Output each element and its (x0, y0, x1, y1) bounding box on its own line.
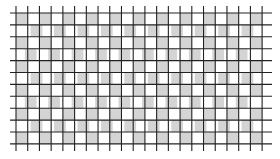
gray-cell (157, 13, 169, 25)
gray-cell (86, 132, 98, 144)
gray-cell (119, 49, 131, 61)
gray-cell (110, 37, 122, 49)
gray-cell (78, 120, 90, 132)
gray-cell (227, 61, 239, 73)
gray-cell (86, 13, 98, 25)
gray-cell (63, 132, 75, 144)
gray-cell (133, 132, 145, 144)
gray-cell (250, 13, 262, 25)
gray-cell (180, 132, 192, 144)
gray-cell (63, 13, 75, 25)
gray-cell (204, 37, 216, 49)
gray-cell (31, 73, 43, 85)
gray-cell (250, 84, 262, 96)
gray-cell (133, 13, 145, 25)
gray-cell (227, 13, 239, 25)
gray-cell (148, 25, 160, 37)
gray-cell (180, 37, 192, 49)
gray-cell (54, 25, 66, 37)
gray-cell (227, 37, 239, 49)
gray-cell (110, 61, 122, 73)
gray-cell (119, 96, 131, 108)
gray-cell (180, 108, 192, 120)
gray-cell (124, 73, 136, 85)
gray-cell (95, 49, 107, 61)
gray-cell (39, 132, 51, 144)
gray-cell (165, 96, 177, 108)
gray-cell (16, 132, 28, 144)
gray-cell (39, 13, 51, 25)
gray-cell (142, 96, 154, 108)
gray-cell (157, 61, 169, 73)
gray-cell (63, 108, 75, 120)
gray-cell (212, 96, 224, 108)
gray-cell (25, 96, 37, 108)
gray-cell (250, 61, 262, 73)
horizontal-lines (10, 13, 272, 144)
gray-cell (39, 37, 51, 49)
gray-cell (180, 13, 192, 25)
gray-cell (16, 108, 28, 120)
gray-cell (133, 84, 145, 96)
gray-cell (16, 84, 28, 96)
gray-cell (204, 108, 216, 120)
gray-cell (110, 108, 122, 120)
gray-cell (218, 120, 230, 132)
gray-cell (16, 61, 28, 73)
gray-cell (133, 108, 145, 120)
gray-cell (31, 120, 43, 132)
gray-cell (189, 49, 201, 61)
gray-cell (157, 37, 169, 49)
gray-cell (72, 49, 84, 61)
gray-cell (236, 49, 248, 61)
gray-cell (242, 25, 254, 37)
gray-cell (204, 84, 216, 96)
gray-cell (110, 84, 122, 96)
gray-cell (171, 120, 183, 132)
gray-cell (195, 73, 207, 85)
gray-cell (31, 25, 43, 37)
gray-cell (250, 37, 262, 49)
gray-cell (16, 13, 28, 25)
gray-cell (86, 108, 98, 120)
checkerboard-line-grid (0, 0, 280, 159)
gray-cell (133, 37, 145, 49)
gray-cell (250, 108, 262, 120)
gray-cell (72, 96, 84, 108)
gray-cell (242, 120, 254, 132)
gray-cell (95, 96, 107, 108)
gray-cell (148, 120, 160, 132)
gray-cell (204, 132, 216, 144)
gray-cell (212, 49, 224, 61)
gray-cell (189, 96, 201, 108)
gray-cell (78, 73, 90, 85)
gray-cell (204, 13, 216, 25)
gray-cell (86, 37, 98, 49)
gray-cell (250, 132, 262, 144)
gray-cell (39, 61, 51, 73)
gray-cell (78, 25, 90, 37)
gray-cell (110, 13, 122, 25)
gray-cell (54, 120, 66, 132)
gray-cell (63, 37, 75, 49)
gray-cell (101, 120, 113, 132)
gray-cell (218, 73, 230, 85)
gray-cells (16, 13, 262, 144)
gray-cell (124, 25, 136, 37)
gray-cell (180, 84, 192, 96)
gray-cell (195, 120, 207, 132)
gray-cell (142, 49, 154, 61)
gray-cell (227, 84, 239, 96)
gray-cell (63, 84, 75, 96)
gray-cell (180, 61, 192, 73)
gray-cell (218, 25, 230, 37)
gray-cell (157, 84, 169, 96)
gray-cell (110, 132, 122, 144)
gray-cell (157, 108, 169, 120)
gray-cell (39, 108, 51, 120)
gray-cell (86, 61, 98, 73)
gray-cell (236, 96, 248, 108)
gray-cell (101, 73, 113, 85)
gray-cell (227, 132, 239, 144)
gray-cell (48, 49, 60, 61)
